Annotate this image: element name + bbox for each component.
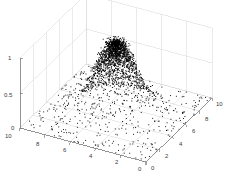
y-tick-label: 2 <box>165 153 168 159</box>
y-tick-label: 6 <box>192 128 195 134</box>
scatter3d-plot <box>0 0 232 181</box>
x-tick-label: 0 <box>138 166 141 172</box>
y-tick-label: 0 <box>151 165 154 171</box>
x-tick-label: 4 <box>89 153 92 159</box>
z-tick-label: 1 <box>8 55 11 61</box>
x-tick-label: 6 <box>63 147 66 153</box>
y-tick-label: 8 <box>205 116 208 122</box>
data-points <box>29 36 211 159</box>
z-tick-label: 0.5 <box>4 92 12 98</box>
y-tick-label: 4 <box>179 141 182 147</box>
back-right-wall <box>20 0 86 128</box>
x-tick-label: 8 <box>36 141 39 147</box>
figure-canvas: 1 0.5 0 10 8 6 4 2 0 0 2 4 6 8 10 <box>0 0 232 181</box>
y-tick-label: 10 <box>216 101 223 107</box>
z-tick-label: 0 <box>11 125 14 131</box>
x-tick-label: 10 <box>5 133 12 139</box>
x-tick-label: 2 <box>115 159 118 165</box>
